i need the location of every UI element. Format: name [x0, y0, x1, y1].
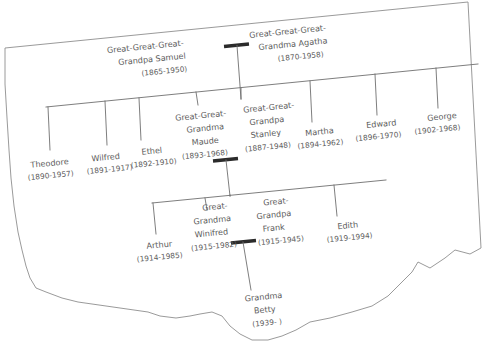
person-name-line: Ethel — [141, 145, 163, 157]
paper-sheet — [5, 2, 481, 340]
person-name-line: Edith — [337, 219, 359, 231]
person-name-line: Betty — [253, 303, 276, 315]
family-tree-svg: Great-Great-Great- Grandpa Samuel (1865-… — [0, 0, 485, 349]
family-tree-screenshot: Great-Great-Great- Grandpa Samuel (1865-… — [0, 0, 485, 349]
